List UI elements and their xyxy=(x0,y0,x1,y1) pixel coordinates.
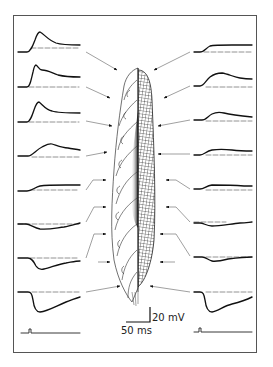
left-traces xyxy=(18,32,80,333)
left-trace-6 xyxy=(18,223,80,229)
right-trace-3 xyxy=(194,112,252,121)
neuron-recording-figure xyxy=(0,0,273,367)
left-trace-5 xyxy=(18,185,80,191)
right-trace-8 xyxy=(194,292,252,312)
right-trace-4 xyxy=(194,149,252,155)
neuron-drawing xyxy=(112,68,155,306)
left-trace-3 xyxy=(18,102,80,122)
left-trace-2 xyxy=(18,65,80,87)
right-trace-5 xyxy=(194,185,252,190)
scale-bar-voltage-label: 20 mV xyxy=(152,312,185,323)
left-stimulus-marker xyxy=(21,329,80,333)
left-trace-7 xyxy=(18,258,80,269)
right-trace-2 xyxy=(194,73,252,87)
scale-bar xyxy=(126,307,150,322)
right-trace-7 xyxy=(194,257,252,261)
left-trace-8 xyxy=(18,292,80,312)
right-stimulus-marker xyxy=(194,328,252,332)
left-trace-1 xyxy=(18,32,80,52)
scale-bar-time-label: 50 ms xyxy=(121,325,152,336)
left-trace-4 xyxy=(18,144,80,157)
right-traces xyxy=(194,45,252,332)
meshwork-lobe xyxy=(138,70,155,287)
right-trace-1 xyxy=(194,45,252,52)
right-trace-6 xyxy=(194,222,252,226)
